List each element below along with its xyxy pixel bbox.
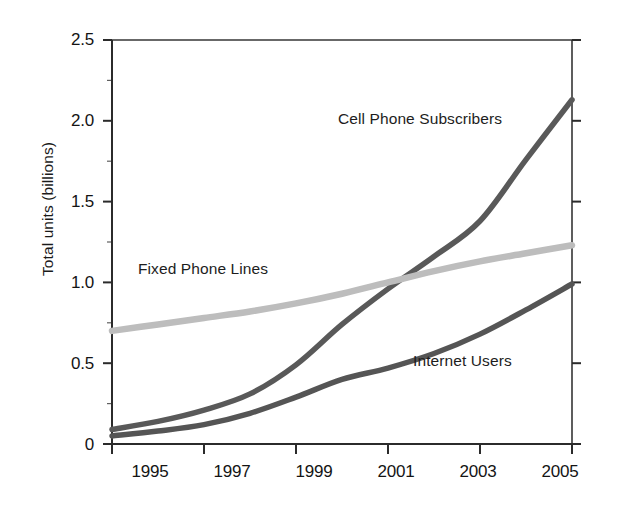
x-tick-label-2003: 2003 bbox=[448, 462, 508, 482]
series-label-internet-users: Internet Users bbox=[413, 352, 512, 370]
x-tick-label-2005: 2005 bbox=[530, 462, 590, 482]
y-tick-label-0-5: 0.5 bbox=[48, 354, 94, 374]
series-line-fixed-phone-lines bbox=[112, 245, 572, 331]
series-label-cell-phone-subscribers: Cell Phone Subscribers bbox=[338, 110, 502, 128]
axis-lines bbox=[103, 40, 581, 454]
y-tick-label-1-5: 1.5 bbox=[48, 192, 94, 212]
x-tick-label-1997: 1997 bbox=[202, 462, 262, 482]
x-tick-label-2001: 2001 bbox=[366, 462, 426, 482]
y-tick-label-2-5: 2.5 bbox=[48, 30, 94, 50]
line-chart: Total units (billions) 2.5 2.0 1.5 1.0 0… bbox=[0, 0, 624, 512]
y-tick-label-1-0: 1.0 bbox=[48, 273, 94, 293]
x-tick-label-1995: 1995 bbox=[120, 462, 180, 482]
series-label-fixed-phone-lines: Fixed Phone Lines bbox=[138, 260, 268, 278]
x-tick-label-1999: 1999 bbox=[284, 462, 344, 482]
y-tick-label-0: 0 bbox=[48, 435, 94, 455]
y-tick-label-2-0: 2.0 bbox=[48, 111, 94, 131]
